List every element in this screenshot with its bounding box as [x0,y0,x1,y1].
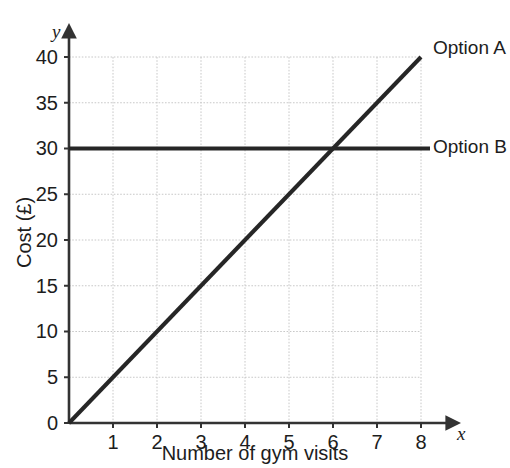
y-tick-label-40: 40 [20,47,58,67]
x-axis-title: Number of gym visits [0,443,510,463]
series-label-option-b: Option B [433,137,507,156]
gym-cost-line-chart: y x 0 5 10 15 20 25 30 35 40 1 2 3 4 5 6… [0,0,510,468]
y-axis-variable-label: y [52,22,60,41]
y-tick-label-5: 5 [20,367,58,387]
y-axis-title: Cost (£) [14,197,34,268]
x-axis-variable-label: x [457,424,465,443]
y-tick-label-0: 0 [20,413,58,433]
y-tick-label-15: 15 [20,276,58,296]
y-tick-label-30: 30 [20,138,58,158]
y-tick-label-35: 35 [20,93,58,113]
chart-plot-area [0,0,510,468]
y-tick-label-10: 10 [20,321,58,341]
series-label-option-a: Option A [433,38,506,57]
